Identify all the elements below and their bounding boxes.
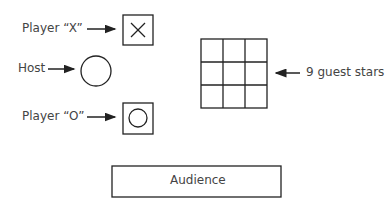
audience-label: Audience (170, 173, 226, 187)
host-label: Host (18, 61, 45, 75)
host-circle (81, 56, 111, 86)
player-o-label: Player “O” (22, 109, 84, 123)
guest-stars-grid (201, 39, 267, 108)
player-o-box (123, 103, 153, 134)
guest-stars-label: 9 guest stars (306, 65, 384, 79)
player-x-box (123, 15, 153, 45)
player-x-label: Player “X” (22, 21, 83, 35)
